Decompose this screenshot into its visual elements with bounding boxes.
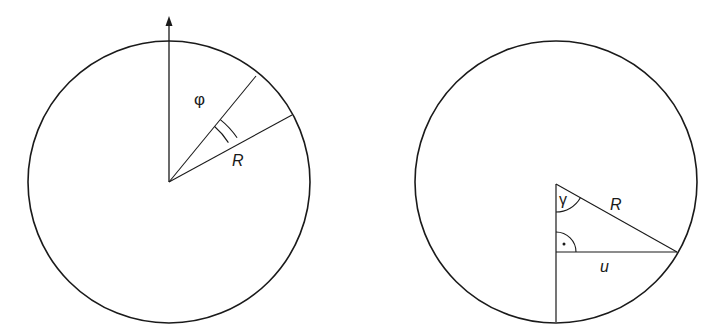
radius-label-right: R bbox=[610, 196, 622, 213]
leg-u-label: u bbox=[600, 258, 609, 275]
hypotenuse-R bbox=[556, 184, 677, 252]
sector-ray-lower bbox=[169, 115, 292, 182]
geometry-diagram: φ R γ R u bbox=[0, 0, 727, 333]
phi-label: φ bbox=[194, 90, 205, 109]
arrowhead-icon bbox=[166, 16, 173, 26]
right-figure: γ R u bbox=[415, 41, 697, 323]
radius-label-left: R bbox=[232, 152, 244, 169]
right-angle-dot-icon bbox=[563, 243, 566, 246]
left-figure: φ R bbox=[28, 16, 310, 323]
sector-arc-inner bbox=[215, 127, 229, 143]
right-angle-arc bbox=[556, 232, 576, 252]
gamma-label: γ bbox=[559, 191, 567, 208]
